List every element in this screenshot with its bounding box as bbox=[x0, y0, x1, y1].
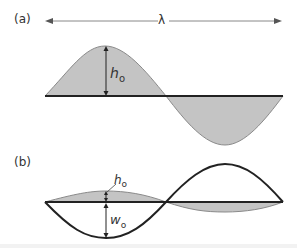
wavelength-label: λ bbox=[158, 13, 165, 27]
h-label-b: ho bbox=[114, 173, 127, 189]
h-negative-lobe bbox=[166, 202, 283, 212]
wave-negative-lobe bbox=[166, 96, 283, 145]
w-subscript: o bbox=[121, 220, 127, 230]
h-letter: h bbox=[114, 173, 122, 187]
amplitude-h: h bbox=[110, 65, 119, 81]
amplitude-label-a: ho bbox=[110, 65, 125, 84]
amplitude-subscript: o bbox=[119, 73, 125, 84]
w-letter: w bbox=[110, 212, 121, 227]
wave-diagram bbox=[0, 0, 297, 248]
bottom-border bbox=[0, 244, 297, 248]
w-arrow-b bbox=[104, 203, 109, 238]
h-subscript: o bbox=[122, 179, 128, 189]
w-label-b: wo bbox=[110, 212, 126, 230]
